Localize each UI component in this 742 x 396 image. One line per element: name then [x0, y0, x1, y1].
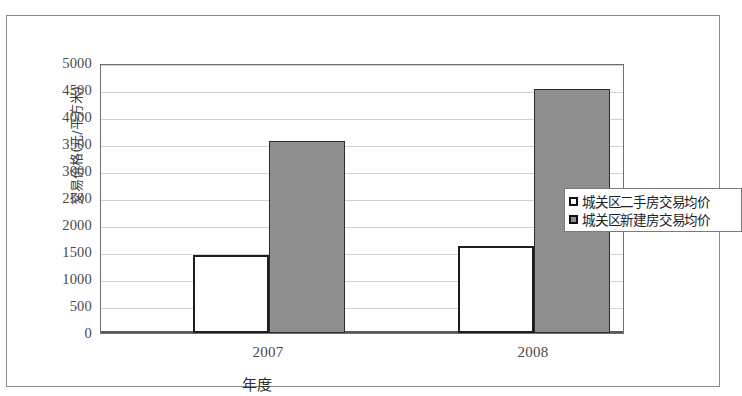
legend-item-label: 城关区二手房交易均价	[582, 191, 710, 211]
y-axis-tick-label: 1500	[36, 245, 92, 259]
chart-legend: 城关区二手房交易均价城关区新建房交易均价	[564, 188, 742, 232]
y-axis-tick-label: 4000	[36, 110, 92, 124]
legend-item: 城关区新建房交易均价	[569, 210, 739, 228]
bar	[458, 246, 534, 333]
bar	[269, 141, 345, 333]
y-axis-tick-label: 3500	[36, 137, 92, 151]
plot-area	[100, 64, 624, 334]
y-axis-tick-label: 2500	[36, 191, 92, 205]
x-axis-tick-label: 2008	[473, 344, 593, 361]
y-axis-tick-label: 5000	[36, 56, 92, 70]
legend-item: 城关区二手房交易均价	[569, 192, 739, 210]
legend-swatch-icon	[569, 197, 578, 206]
y-axis-tick-label: 0	[36, 326, 92, 340]
y-axis-tick-label: 4500	[36, 83, 92, 97]
bar	[193, 255, 269, 333]
x-axis-tick-label: 2007	[208, 344, 328, 361]
legend-item-label: 城关区新建房交易均价	[582, 209, 710, 229]
x-axis-title: 年度	[197, 373, 317, 394]
y-axis-tick-label: 2000	[36, 218, 92, 232]
chart-outer-frame: 交易价格(元/平方米) 0500100015002000250030003500…	[6, 15, 720, 387]
gridline	[101, 65, 623, 66]
y-axis-tick-label: 500	[36, 299, 92, 313]
legend-swatch-icon	[569, 215, 578, 224]
y-axis-tick-label: 3000	[36, 164, 92, 178]
y-axis-tick-label: 1000	[36, 272, 92, 286]
